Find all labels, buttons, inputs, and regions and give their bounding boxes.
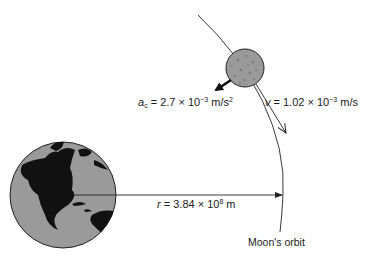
acceleration-unit: m/s — [208, 96, 229, 108]
orbit-label: Moon's orbit — [248, 236, 305, 248]
velocity-value: = 1.02 × 10 — [271, 96, 330, 108]
acceleration-label: ac = 2.7 × 10−3 m/s2 — [138, 96, 233, 109]
radius-value: = 3.84 × 10 — [161, 198, 220, 210]
radius-unit: m — [223, 198, 235, 210]
velocity-label: v = 1.02 × 10−3 m/s — [265, 96, 358, 108]
acceleration-unit-exponent: 2 — [229, 96, 233, 103]
acceleration-value: = 2.7 × 10 — [148, 96, 201, 108]
acceleration-arrow — [216, 80, 231, 90]
velocity-exponent: −3 — [329, 96, 337, 103]
velocity-arrow — [256, 84, 286, 133]
velocity-unit: m/s — [337, 96, 358, 108]
radius-label: r = 3.84 × 108 m — [157, 198, 236, 210]
moon — [226, 49, 264, 87]
moon-orbit-diagram — [0, 0, 386, 268]
